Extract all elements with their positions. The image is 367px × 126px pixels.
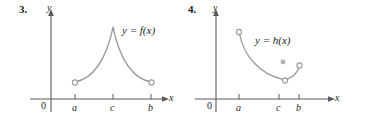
plot-area-3 — [0, 0, 184, 126]
curve-label: y = h(x) — [255, 35, 291, 45]
open-endpoint-a — [72, 80, 77, 85]
y-axis-label: y — [213, 3, 217, 13]
tick-label-c: c — [110, 103, 114, 113]
tick-label-b: b — [148, 103, 153, 113]
tick-label-b: b — [296, 103, 301, 113]
x-axis-arrowhead — [162, 96, 169, 102]
tick-label-c: c — [276, 103, 280, 113]
filled-value-dot-c — [281, 60, 286, 65]
curve-label: y = f(x) — [122, 25, 155, 35]
tick-label-a: a — [236, 103, 241, 113]
open-point-c — [282, 78, 287, 83]
x-axis-label: x — [335, 93, 339, 103]
figure-panel-3: 3. y x 0 a c b y = f(x) — [0, 0, 184, 126]
origin-label: 0 — [41, 101, 46, 111]
open-endpoint-b — [149, 80, 154, 85]
open-endpoint-a — [236, 29, 241, 34]
y-axis-label: y — [47, 3, 51, 13]
origin-label: 0 — [207, 101, 212, 111]
figure-panel-4: 4. y x 0 a c b y = h(x) — [183, 0, 367, 126]
open-endpoint-b — [297, 63, 302, 68]
figure-root: 3. y x 0 a c b y = f(x) 4. — [0, 0, 367, 126]
x-axis-label: x — [169, 93, 173, 103]
tick-label-a: a — [72, 103, 77, 113]
x-axis-arrowhead — [328, 96, 335, 102]
curve-left-branch — [75, 28, 113, 83]
